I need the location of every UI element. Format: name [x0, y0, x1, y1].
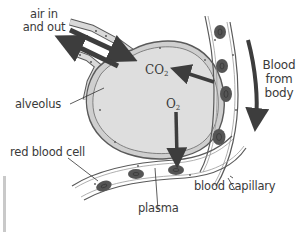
label-o2: O2: [166, 98, 180, 114]
label-air-line2: and out: [14, 21, 74, 34]
label-air-in-and-out: air in and out: [14, 8, 74, 34]
red-blood-cell: [220, 86, 232, 102]
label-blood-line2: from: [258, 72, 300, 86]
red-blood-cell: [216, 59, 228, 73]
o2-sub: 2: [176, 104, 180, 112]
blood-flow-arrow: [248, 40, 257, 120]
label-blood-capillary: blood capillary: [194, 180, 275, 193]
label-blood-from-body: Blood from body: [258, 58, 300, 100]
red-blood-cell: [214, 25, 226, 39]
label-red-blood-cell: red blood cell: [10, 146, 85, 159]
page-margin-bar: [3, 176, 6, 232]
o2-arrow: [176, 112, 177, 158]
red-blood-cell: [213, 129, 226, 145]
label-co2: CO2: [145, 64, 169, 80]
co2-sub: 2: [164, 70, 168, 78]
alveolus-gas-exchange-diagram: [0, 0, 302, 232]
red-blood-cell: [168, 165, 184, 175]
label-alveolus: alveolus: [15, 98, 61, 111]
o2-base: O: [166, 97, 176, 111]
label-blood-line1: Blood: [258, 58, 300, 72]
co2-base: CO: [145, 63, 164, 77]
label-blood-line3: body: [258, 86, 300, 100]
label-plasma: plasma: [138, 202, 179, 215]
red-blood-cell: [128, 169, 144, 179]
